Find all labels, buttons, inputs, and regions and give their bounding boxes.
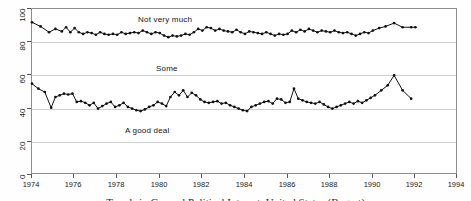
x-tick-mark-1986: [287, 174, 288, 178]
series-layer: [32, 9, 458, 175]
y-tick-label-60: 60: [18, 75, 27, 97]
x-tick-label-1976: 1976: [65, 180, 82, 189]
series-points-some: [31, 74, 413, 112]
x-tick-label-1994: 1994: [448, 180, 465, 189]
y-tick-label-40: 40: [18, 109, 27, 131]
x-tick-mark-1984: [244, 174, 245, 178]
series-annotation-some: Some: [156, 64, 178, 73]
series-annotation-a-good-deal: A good deal: [125, 126, 169, 135]
y-tick-label-100: 100: [18, 9, 27, 31]
x-tick-label-1984: 1984: [236, 180, 253, 189]
plot-area: Not very much Some A good deal: [31, 8, 457, 174]
x-tick-mark-1994: [456, 174, 457, 178]
x-tick-label-1980: 1980: [151, 180, 168, 189]
series-annotation-not-very-much: Not very much: [138, 15, 192, 24]
x-tick-mark-1990: [372, 174, 373, 178]
x-tick-label-1978: 1978: [108, 180, 125, 189]
x-tick-mark-1974: [31, 174, 32, 178]
x-tick-label-1974: 1974: [23, 180, 40, 189]
x-tick-label-1990: 1990: [364, 180, 381, 189]
x-tick-label-1982: 1982: [193, 180, 210, 189]
x-tick-mark-1978: [116, 174, 117, 178]
x-tick-mark-1976: [73, 174, 74, 178]
x-tick-label-1988: 1988: [321, 180, 338, 189]
x-tick-mark-1980: [159, 174, 160, 178]
x-tick-mark-1992: [414, 174, 415, 178]
x-tick-mark-1982: [201, 174, 202, 178]
chart-figure: 100 80 60 40 20 0 Not very much Some A g…: [0, 0, 471, 201]
x-tick-label-1986: 1986: [279, 180, 296, 189]
figure-caption: Trends in General Political Interest, Un…: [0, 196, 471, 201]
y-tick-label-80: 80: [18, 42, 27, 64]
x-tick-label-1992: 1992: [406, 180, 423, 189]
x-tick-mark-1988: [329, 174, 330, 178]
y-tick-label-20: 20: [18, 142, 27, 164]
series-points-not-very-much: [31, 21, 417, 39]
